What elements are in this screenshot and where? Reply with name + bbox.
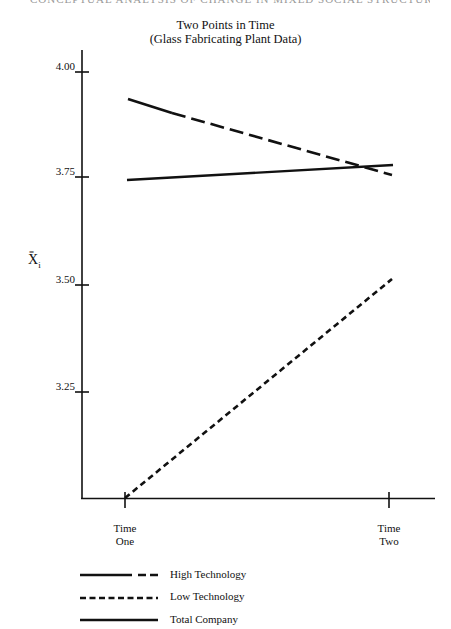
y-axis-label: =Xi <box>28 252 41 270</box>
legend-label-high-technology: High Technology <box>170 568 246 580</box>
x-category-time-two: Time Two <box>369 522 409 548</box>
series-total-company <box>127 165 393 180</box>
y-tick-label: 3.25 <box>35 380 75 392</box>
x-category-line: One <box>105 535 145 548</box>
x-category-line: Two <box>369 535 409 548</box>
series-low-technology <box>125 279 392 498</box>
x-category-time-one: Time One <box>105 522 145 548</box>
y-axis-label-subscript: i <box>38 260 41 270</box>
y-tick-label: 3.75 <box>35 165 75 177</box>
y-tick-label: 3.50 <box>35 273 75 285</box>
series-high-technology <box>128 99 392 175</box>
legend-label-total-company: Total Company <box>170 613 238 625</box>
y-tick-label: 4.00 <box>35 60 75 72</box>
legend-label-low-technology: Low Technology <box>170 590 245 602</box>
double-bar-symbol: = <box>29 249 34 255</box>
x-category-line: Time <box>105 522 145 535</box>
x-category-line: Time <box>369 522 409 535</box>
